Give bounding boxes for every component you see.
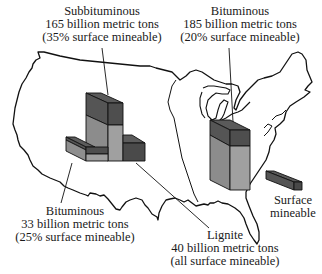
- eastern-bituminous-block: [210, 120, 250, 190]
- label-lignite: Lignite 40 billion metric tons (all surf…: [150, 229, 300, 268]
- label-bituminous-west: Bituminous 33 billion metric tons (25% s…: [0, 205, 150, 244]
- legend-line2: mineable: [264, 207, 322, 220]
- leader-bituminous-east: [229, 48, 233, 122]
- legend-surface-mineable-swatch: [266, 171, 302, 190]
- bituminous-west-surface-pct: (25% surface mineable): [0, 231, 150, 244]
- legend-label: Surface mineable: [264, 194, 322, 220]
- northeast-coast-detail: [264, 110, 286, 136]
- label-subbituminous: Subbituminous 165 billion metric tons (3…: [22, 5, 182, 44]
- western-coal-block: [66, 93, 145, 161]
- leader-subbituminous: [102, 48, 108, 95]
- label-bituminous-east: Bituminous 185 billion metric tons (20% …: [160, 5, 320, 44]
- great-lakes-outline: [203, 86, 250, 122]
- subbituminous-surface-pct: (35% surface mineable): [22, 31, 182, 44]
- coal-reserves-map-figure: Subbituminous 165 billion metric tons (3…: [0, 0, 322, 274]
- bituminous-east-surface-pct: (20% surface mineable): [160, 31, 320, 44]
- lignite-surface-pct: (all surface mineable): [150, 255, 300, 268]
- leader-bituminous-west: [61, 163, 72, 203]
- river-line: [168, 80, 198, 202]
- lake-michigan-outline: [200, 92, 205, 118]
